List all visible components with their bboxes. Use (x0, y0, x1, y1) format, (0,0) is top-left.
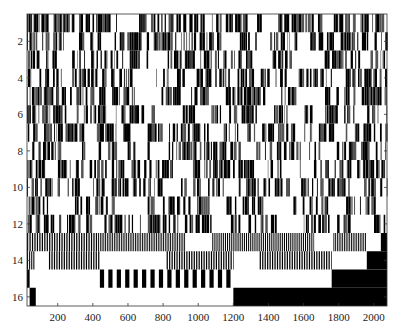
bitplane-chart: 200400600800100012001400160018002000 246… (0, 0, 399, 329)
y-tick-label: 10 (12, 181, 24, 193)
x-tick-label: 1800 (328, 311, 351, 323)
x-tick-label: 400 (85, 311, 102, 323)
y-tick-label: 14 (12, 254, 24, 266)
x-tick-label: 200 (49, 311, 66, 323)
y-tick-label: 2 (18, 35, 24, 47)
y-tick-label: 6 (18, 108, 24, 120)
row-7 (28, 124, 388, 142)
x-tick-label: 800 (155, 311, 172, 323)
x-tick-label: 1000 (187, 311, 210, 323)
x-tick-label: 1600 (293, 311, 316, 323)
x-tick-label: 1400 (257, 311, 280, 323)
plot-area (27, 14, 388, 306)
y-tick-label: 4 (18, 72, 24, 84)
y-tick-label: 12 (12, 218, 23, 230)
x-tick-label: 600 (120, 311, 137, 323)
x-tick-label: 2000 (363, 311, 386, 323)
y-tick-label: 8 (18, 145, 24, 157)
x-tick-label: 1200 (222, 311, 245, 323)
y-tick-label: 16 (12, 291, 24, 303)
